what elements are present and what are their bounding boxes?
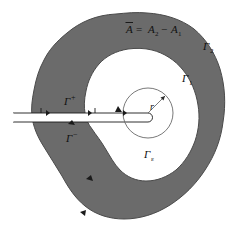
gamma-epsilon-label: Γ ε [143, 148, 154, 163]
slit-rounded-end [148, 113, 153, 122]
area-relation-a1-subscript: 1 [178, 30, 182, 38]
gamma-minus-base: Γ [65, 132, 73, 144]
gamma-plus-superscript: + [71, 93, 76, 102]
slit-channel [13, 113, 148, 122]
radius-label: r [150, 101, 154, 112]
area-relation-minus: − [161, 23, 167, 35]
gamma-1-subscript: 1 [189, 79, 193, 87]
area-relation-a2: A [147, 23, 155, 35]
gamma-2-base: Γ [202, 40, 210, 52]
gamma-minus-superscript: − [73, 130, 78, 139]
math-figure-annulus-with-slit: A = A 2 − A 1 Γ 2 Γ 1 Γ + Γ − Γ ε r [0, 0, 247, 230]
area-relation-equals: = [136, 23, 142, 35]
area-relation-a2-subscript: 2 [155, 30, 159, 38]
gamma-plus-base: Γ [63, 95, 71, 107]
gamma-epsilon-subscript: ε [151, 155, 154, 163]
area-relation-lhs: A [125, 23, 133, 35]
gamma-epsilon-base: Γ [143, 148, 151, 160]
area-relation-a1: A [170, 23, 178, 35]
gamma-2-subscript: 2 [210, 47, 214, 55]
gamma-1-base: Γ [181, 72, 189, 84]
